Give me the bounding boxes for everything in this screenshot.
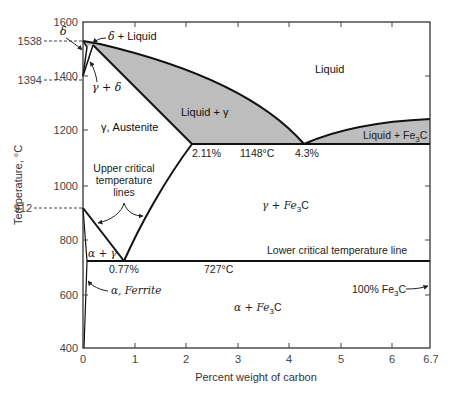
label-alpha-fe3c: α + Fe3C: [234, 301, 282, 316]
x-tick-2: 2: [183, 353, 189, 365]
label-0-77-pct: 0.77%: [109, 263, 139, 275]
label-liquid: Liquid: [315, 63, 344, 75]
y-tick-800: 800: [60, 234, 78, 246]
label-upper-critical-3: lines: [113, 186, 135, 198]
arrow-to-100-fe3c: [406, 286, 428, 289]
y-tick-1200: 1200: [54, 124, 78, 136]
label-2-11-pct: 2.11%: [192, 147, 221, 159]
upper-critical-annotation: Upper critical temperature lines: [93, 162, 154, 223]
arrow-to-a3: [98, 203, 124, 223]
label-delta-liquid: δ + Liquid: [108, 30, 157, 43]
label-gamma-fe3c: γ + Fe3C: [262, 199, 309, 214]
y-mark-1394: 1394: [18, 74, 42, 86]
arrow-to-acm: [124, 203, 143, 216]
x-tick-0: 0: [80, 353, 86, 365]
y-tick-1000: 1000: [54, 180, 78, 192]
label-lower-critical: Lower critical temperature line: [267, 244, 407, 256]
axes-frame: [34, 22, 430, 348]
x-tick-6: 6: [389, 353, 395, 365]
label-liquid-gamma: Liquid + γ: [181, 106, 229, 118]
arrow-to-ferrite: [88, 281, 108, 291]
label-727c: 727°C: [204, 263, 234, 275]
y-tick-1400: 1400: [54, 70, 78, 82]
label-1148c: 1148°C: [240, 147, 275, 159]
x-tick-1: 1: [132, 353, 138, 365]
x-tick-5: 5: [338, 353, 344, 365]
label-ferrite: α, Ferrite: [111, 284, 162, 296]
label-4-3-pct: 4.3%: [295, 147, 319, 159]
label-austenite: γ, Austenite: [101, 121, 158, 133]
y-tick-400: 400: [60, 342, 78, 354]
label-upper-critical-2: temperature: [96, 174, 153, 186]
y-tick-600: 600: [60, 289, 78, 301]
iron-carbon-phase-diagram: 1600 1538 1400 1394 1200 1000 912 800 60…: [0, 0, 452, 397]
label-upper-critical-1: Upper critical: [93, 162, 154, 174]
x-tick-6-7: 6.7: [423, 353, 438, 365]
x-axis-title: Percent weight of carbon: [195, 371, 317, 383]
label-alpha-gamma: α + γ: [88, 247, 118, 259]
label-gamma-delta: γ + δ: [92, 81, 122, 94]
label-delta: δ: [60, 25, 67, 38]
x-axis-labels: 0 1 2 3 4 5 6 6.7: [80, 353, 439, 365]
x-tick-3: 3: [235, 353, 241, 365]
x-tick-4: 4: [286, 353, 292, 365]
label-100-fe3c: 100% Fe3C: [352, 283, 406, 298]
y-axis-title: Temperature, °C: [12, 145, 24, 225]
arrow-gamma-delta: [90, 62, 97, 82]
y-mark-1538: 1538: [18, 35, 42, 47]
arrow-delta: [66, 38, 82, 50]
